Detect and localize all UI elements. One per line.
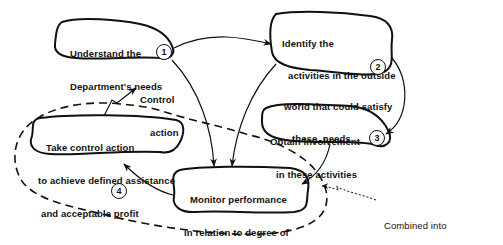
edge-1-to-2 <box>174 37 271 48</box>
combined-line-1: Combined into <box>378 220 490 232</box>
group-4-number-badge: 4 <box>111 183 127 199</box>
node-2-line-3: world that could satisfy <box>282 102 396 113</box>
node-3-line-1: Obtain involvement <box>270 136 360 147</box>
control-action-line-2: action <box>140 127 179 138</box>
monitor-node-label: Monitor performance in relation to degre… <box>184 172 290 245</box>
control-line-2: to achieve defined assistance <box>38 175 175 186</box>
node-1-line-1: Understand the <box>70 48 162 59</box>
node-3-number-badge: 3 <box>369 130 385 146</box>
control-line-3: and acceptable profit <box>38 208 175 219</box>
node-2-number-badge: 2 <box>370 59 386 75</box>
combined-annotation: Combined into a single system for subseq… <box>378 196 490 245</box>
monitor-line-2: in relation to degree of <box>184 227 290 238</box>
control-action-annotation: Control action <box>140 72 179 149</box>
node-2-line-1: Identify the <box>282 39 396 50</box>
monitor-line-1: Monitor performance <box>184 194 290 205</box>
node-1-number-badge: 1 <box>156 44 172 60</box>
control-action-line-1: Control <box>140 94 179 105</box>
